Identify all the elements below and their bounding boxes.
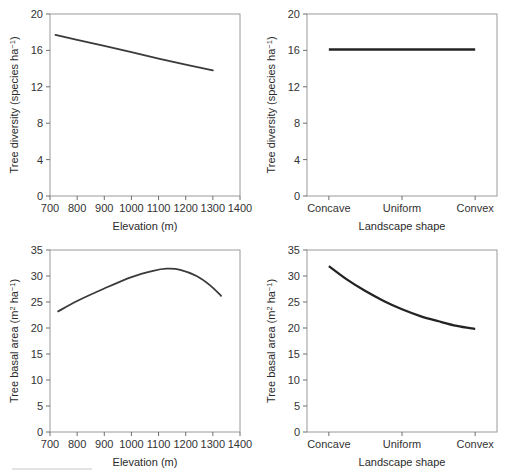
panel-d-xtick-label-uniform: Uniform [383,438,422,450]
panel-c-xtick-label: 1100 [147,438,171,450]
panel-a-xtick-label: 1400 [228,202,252,214]
panel-d-ytick-label: 0 [294,426,300,438]
panel-c-xtick-label: 800 [68,438,86,450]
panel-tree-diversity-elevation: 04812162070080090010001100120013001400El… [0,0,256,237]
panel-c-yaxis-title: Tree basal area (m2 ha−1) [8,279,21,403]
panel-a-xtick-label: 800 [68,202,86,214]
panel-d-ytick-label: 35 [288,244,300,256]
panel-c-ytick-label: 10 [31,374,43,386]
panel-d-frame [307,250,497,432]
panel-c-ytick-label: 0 [37,426,43,438]
panel-d-ytick-label: 30 [288,270,300,282]
chart-svg-panel-a: 04812162070080090010001100120013001400El… [0,0,256,237]
panel-a-yaxis-title: Tree diversity (species ha−1) [8,36,21,173]
chart-svg-panel-d: 05101520253035ConcaveUniformConvexLandsc… [257,236,513,474]
panel-a-xtick-label: 1300 [201,202,225,214]
panel-b-yaxis-title: Tree diversity (species ha−1) [265,36,278,173]
panel-c-data-line [58,269,221,312]
panel-a-ytick-label: 12 [31,81,43,93]
panel-a-ytick-label: 4 [37,154,43,166]
panel-a-frame [50,14,240,196]
panel-c-ytick-label: 25 [31,296,43,308]
panel-a-ytick-label: 8 [37,117,43,129]
panel-c-ytick-label: 30 [31,270,43,282]
figure-container: 04812162070080090010001100120013001400El… [0,0,513,474]
chart-svg-panel-c: 0510152025303570080090010001100120013001… [0,236,256,474]
panel-a-data-line [55,35,212,70]
panel-d-xtick-label-concave: Concave [307,438,350,450]
panel-a-xtick-label: 700 [41,202,59,214]
panel-tree-basal-area-landscape: 05101520253035ConcaveUniformConvexLandsc… [257,236,513,473]
panel-a-ytick-label: 16 [31,44,43,56]
plot-area-panel-d: 05101520253035ConcaveUniformConvexLandsc… [265,244,498,468]
panel-c-xtick-label: 1400 [228,438,252,450]
panel-c-ytick-label: 5 [37,400,43,412]
plot-area-panel-b: 048121620ConcaveUniformConvexLandscape s… [265,8,498,232]
panel-c-xtick-label: 1200 [173,438,197,450]
panel-c-xtick-label: 1300 [201,438,225,450]
panel-b-ytick-label: 8 [294,117,300,129]
panel-d-data-line [329,266,475,329]
panel-b-xaxis-title: Landscape shape [359,220,446,232]
panel-a-xtick-label: 900 [95,202,113,214]
panel-c-xtick-label: 700 [41,438,59,450]
panel-a-xtick-label: 1200 [173,202,197,214]
panel-d-ytick-label: 15 [288,348,300,360]
plot-area-panel-c: 0510152025303570080090010001100120013001… [8,244,253,468]
panel-a-ytick-label: 0 [37,190,43,202]
panel-c-ytick-label: 15 [31,348,43,360]
panel-a-ytick-label: 20 [31,8,43,20]
panel-d-xaxis-title: Landscape shape [359,456,446,468]
plot-area-panel-a: 04812162070080090010001100120013001400El… [8,8,253,232]
panel-a-xtick-label: 1000 [119,202,143,214]
panel-d-ytick-label: 20 [288,322,300,334]
panel-d-ytick-label: 25 [288,296,300,308]
panel-c-ytick-label: 35 [31,244,43,256]
panel-b-ytick-label: 20 [288,8,300,20]
panel-tree-basal-area-elevation: 0510152025303570080090010001100120013001… [0,236,256,473]
panel-a-xtick-label: 1100 [147,202,171,214]
panel-a-xaxis-title: Elevation (m) [113,220,178,232]
panel-tree-diversity-landscape: 048121620ConcaveUniformConvexLandscape s… [257,0,513,237]
panel-c-xtick-label: 900 [95,438,113,450]
panel-c-xtick-label: 1000 [119,438,143,450]
panel-b-xtick-label-concave: Concave [307,202,350,214]
panel-b-xtick-label-convex: Convex [457,202,495,214]
panel-b-ytick-label: 0 [294,190,300,202]
panel-b-ytick-label: 4 [294,154,300,166]
chart-svg-panel-b: 048121620ConcaveUniformConvexLandscape s… [257,0,513,237]
panel-c-ytick-label: 20 [31,322,43,334]
scan-artifact [10,462,130,474]
panel-d-yaxis-title: Tree basal area (m2 ha−1) [265,279,278,403]
panel-b-frame [307,14,497,196]
panel-d-xtick-label-convex: Convex [457,438,495,450]
panel-c-frame [50,250,240,432]
panel-d-ytick-label: 10 [288,374,300,386]
panel-d-ytick-label: 5 [294,400,300,412]
panel-b-ytick-label: 16 [288,44,300,56]
panel-b-ytick-label: 12 [288,81,300,93]
panel-b-xtick-label-uniform: Uniform [383,202,422,214]
